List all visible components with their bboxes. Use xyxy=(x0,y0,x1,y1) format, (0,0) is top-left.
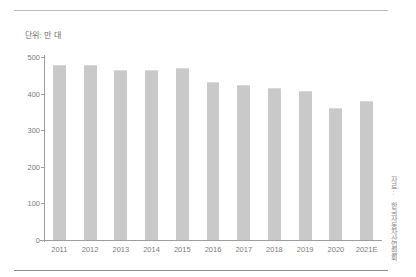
y-axis-unit-label: 단위: 만 대 xyxy=(25,29,61,40)
source-note: 자료: 한국자동차산업협회 xyxy=(388,176,398,261)
bar-slot xyxy=(207,40,220,240)
bar[interactable] xyxy=(114,70,127,240)
x-axis-tick-label: 2013 xyxy=(105,245,136,254)
bar-slot xyxy=(176,40,189,240)
bar-slot xyxy=(268,40,281,240)
bar-slot xyxy=(114,40,127,240)
y-axis-tick-label: 500 xyxy=(0,53,40,62)
y-axis-tick-label: 0 xyxy=(0,236,40,245)
y-axis-tick-label: 400 xyxy=(0,89,40,98)
bar[interactable] xyxy=(237,85,250,240)
y-axis-tick-mark xyxy=(41,240,44,241)
y-axis-tick-label: 300 xyxy=(0,126,40,135)
bar-slot xyxy=(145,40,158,240)
bar[interactable] xyxy=(329,108,342,240)
y-axis-tick-label: 100 xyxy=(0,199,40,208)
x-axis-line xyxy=(40,240,382,241)
x-axis-tick-label: 2012 xyxy=(75,245,106,254)
x-axis-tick-label: 2015 xyxy=(167,245,198,254)
bar-series-group xyxy=(44,40,382,240)
x-axis-tick-label: 2017 xyxy=(228,245,259,254)
x-axis-tick-label: 2020 xyxy=(321,245,352,254)
bar-slot xyxy=(84,40,97,240)
x-axis-tick-label: 2011 xyxy=(44,245,75,254)
y-axis-tick-label: 200 xyxy=(0,162,40,171)
bar-slot xyxy=(237,40,250,240)
bar-slot xyxy=(360,40,373,240)
x-axis-tick-label: 2014 xyxy=(136,245,167,254)
bar[interactable] xyxy=(53,65,66,240)
bar[interactable] xyxy=(145,70,158,240)
x-axis-tick-label: 2018 xyxy=(259,245,290,254)
bar-slot xyxy=(299,40,312,240)
bar-slot xyxy=(329,40,342,240)
bottom-divider-rule xyxy=(14,270,388,271)
top-divider-rule xyxy=(14,10,388,11)
x-axis-tick-label: 2019 xyxy=(290,245,321,254)
bar[interactable] xyxy=(176,68,189,240)
bar[interactable] xyxy=(84,65,97,240)
x-axis-tick-label: 2021E xyxy=(351,245,382,254)
bar[interactable] xyxy=(207,82,220,240)
x-axis-tick-label: 2016 xyxy=(198,245,229,254)
chart-figure: 단위: 만 대 0100200300400500 201120122013201… xyxy=(0,0,416,277)
bar-slot xyxy=(53,40,66,240)
bar[interactable] xyxy=(360,101,373,240)
bar[interactable] xyxy=(299,91,312,240)
bar[interactable] xyxy=(268,88,281,240)
